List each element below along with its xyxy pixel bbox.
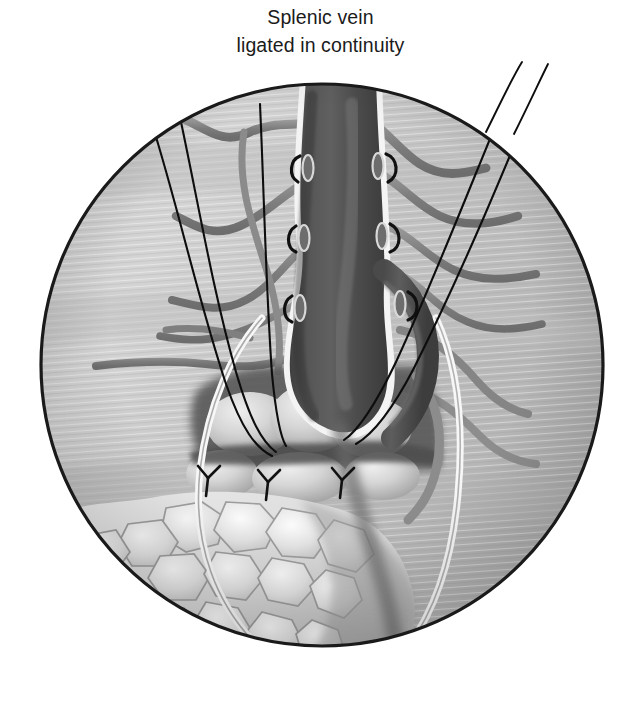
figure-root: Splenic vein ligated in continuity (0, 0, 641, 703)
fat-cell (236, 650, 282, 684)
suture-tail (486, 62, 522, 132)
suture-tails-outside-field (486, 62, 548, 134)
fat-cell (46, 632, 84, 668)
operative-field-illustration (0, 0, 641, 703)
fat-cell (86, 634, 138, 672)
fat-cell (52, 584, 104, 626)
fat-cell (94, 578, 152, 622)
fat-cell (176, 646, 226, 682)
suture-tail (514, 64, 548, 134)
operative-field-contents (39, 62, 605, 684)
